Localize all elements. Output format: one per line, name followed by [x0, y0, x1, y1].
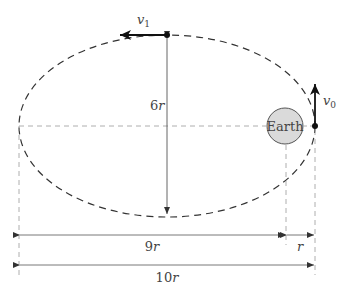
apogee-point: [164, 32, 170, 38]
v1-label: v1: [137, 12, 150, 29]
perigee-point: [312, 123, 318, 129]
dimension-r-label: r: [297, 239, 304, 254]
orbit-diagram: 6r v1 Earth v0 9r r 10r: [0, 0, 353, 297]
v0-label: v0: [323, 93, 336, 110]
earth-label: Earth: [266, 119, 304, 134]
semi-minor-label: 6r: [150, 98, 165, 113]
dimension-9r-label: 9r: [145, 239, 160, 254]
dimension-10r-label: 10r: [156, 270, 180, 285]
